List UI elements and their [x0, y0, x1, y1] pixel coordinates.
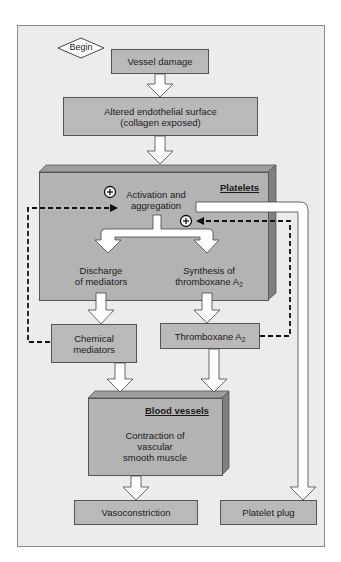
- plus-circle-icon: [181, 216, 192, 227]
- plus-circle-icon: [105, 187, 116, 198]
- arrow-down-icon: [147, 136, 173, 164]
- arrow-down-icon: [201, 349, 227, 392]
- arrow-down-icon: [88, 293, 114, 324]
- diagram-arrows: [0, 0, 341, 562]
- arrow-down-icon: [147, 74, 173, 97]
- feedback-dashed-right: [202, 221, 290, 336]
- arrow-left-icon: [196, 217, 204, 225]
- arrow-down-icon: [194, 293, 220, 323]
- begin-label: Begin: [58, 42, 104, 53]
- arrow-down-icon: [107, 363, 133, 392]
- arrow-down-icon: [123, 476, 149, 500]
- arrow-right-icon: [110, 204, 118, 212]
